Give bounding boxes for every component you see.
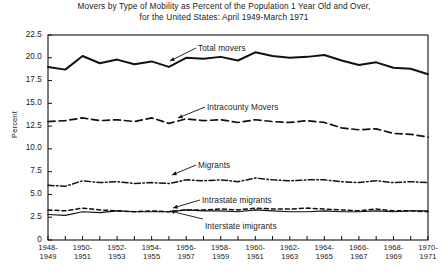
series-line <box>48 178 428 186</box>
plot-canvas <box>0 0 448 276</box>
data-series-layer <box>48 52 428 215</box>
series-line <box>48 118 428 137</box>
chart-figure: Movers by Type of Mobility as Percent of… <box>0 0 448 276</box>
series-line <box>48 52 428 74</box>
annotation-leader-lines <box>170 48 205 219</box>
